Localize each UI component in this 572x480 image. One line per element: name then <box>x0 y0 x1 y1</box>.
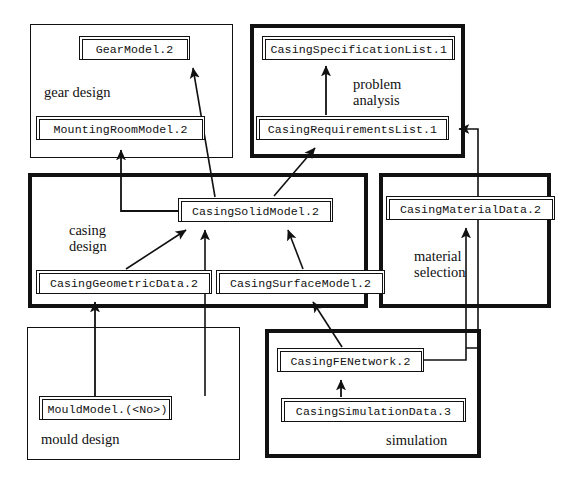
node-casing-simulation-data[interactable]: CasingSimulationData.3 <box>281 398 466 422</box>
group-label-gear-design: gear design <box>44 84 110 100</box>
node-casing-specification-list[interactable]: CasingSpecificationList.1 <box>262 36 455 60</box>
node-mould-model[interactable]: MouldModel.(<No>) <box>39 396 172 420</box>
node-casing-material-data[interactable]: CasingMaterialData.2 <box>386 196 555 220</box>
node-label-casing-geometric-data: CasingGeometricData.2 <box>39 273 210 295</box>
node-gear-model[interactable]: GearModel.2 <box>79 36 190 60</box>
node-casing-solid-model[interactable]: CasingSolidModel.2 <box>178 198 333 222</box>
node-label-casing-surface-model: CasingSurfaceModel.2 <box>219 273 383 295</box>
node-casing-surface-model[interactable]: CasingSurfaceModel.2 <box>216 270 385 294</box>
node-label-casing-fe-network: CasingFENetwork.2 <box>280 351 422 373</box>
group-label-mould-design: mould design <box>41 431 120 447</box>
group-label-simulation: simulation <box>386 432 447 448</box>
node-label-casing-requirements-list: CasingRequirementsList.1 <box>259 119 447 141</box>
node-label-casing-specification-list: CasingSpecificationList.1 <box>265 39 453 61</box>
node-label-casing-simulation-data: CasingSimulationData.3 <box>284 401 464 423</box>
node-label-mould-model: MouldModel.(<No>) <box>42 399 170 421</box>
diagram-canvas: gear design problem analysis casing desi… <box>0 0 572 480</box>
node-label-gear-model: GearModel.2 <box>82 39 188 61</box>
group-material-selection <box>379 173 551 308</box>
group-label-material-selection: material selection <box>414 248 466 280</box>
node-casing-fe-network[interactable]: CasingFENetwork.2 <box>277 348 424 372</box>
group-label-problem-analysis: problem analysis <box>353 76 401 108</box>
node-mounting-room-model[interactable]: MountingRoomModel.2 <box>36 116 205 140</box>
node-casing-requirements-list[interactable]: CasingRequirementsList.1 <box>256 116 449 140</box>
node-label-casing-solid-model: CasingSolidModel.2 <box>181 201 331 223</box>
node-casing-geometric-data[interactable]: CasingGeometricData.2 <box>36 270 212 294</box>
group-label-casing-design: casing design <box>69 222 107 254</box>
node-label-casing-material-data: CasingMaterialData.2 <box>389 199 553 221</box>
node-label-mounting-room-model: MountingRoomModel.2 <box>39 119 203 141</box>
